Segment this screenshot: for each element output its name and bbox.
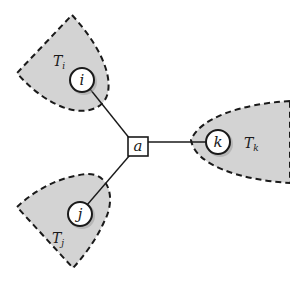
node-a-label: a <box>134 137 143 155</box>
edge-a-i <box>90 89 130 139</box>
tree-diagram: i j k a Ti Tj Tk <box>0 0 290 282</box>
node-k-label: k <box>213 133 222 151</box>
node-a[interactable]: a <box>128 137 148 156</box>
node-i-label: i <box>80 71 85 89</box>
subtree-region-j <box>17 174 110 268</box>
